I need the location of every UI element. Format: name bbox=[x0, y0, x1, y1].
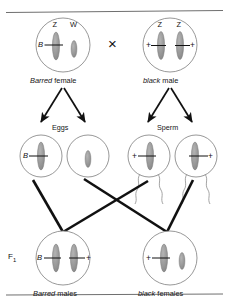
chromosome-label-z-male-left: Z bbox=[158, 21, 163, 28]
fertilization-line-sperm-to-f1-male bbox=[63, 181, 148, 232]
chromosome-label-w-female: W bbox=[70, 21, 77, 28]
allele-label-female-b: B bbox=[38, 41, 43, 49]
parent-male-caption-italic: black bbox=[143, 76, 160, 85]
eggs-label: Eggs bbox=[52, 124, 68, 131]
parent-female-caption-rest: female bbox=[54, 76, 76, 85]
figure-canvas: Z W Z Z B + + × Barred female black male… bbox=[0, 0, 229, 303]
parent-male-caption: black male bbox=[143, 77, 178, 84]
chromosome-label-z-female: Z bbox=[53, 21, 58, 28]
chromosome-f1-female-w bbox=[179, 253, 185, 270]
chromosome-z-female bbox=[52, 32, 59, 60]
allele-label-egg-b: B bbox=[23, 152, 28, 160]
sperm-label: Sperm bbox=[157, 124, 178, 131]
arrow-male-to-sperm-left bbox=[148, 88, 169, 122]
allele-label-sperm-right-plus: + bbox=[208, 152, 213, 160]
parent-female-caption-italic: Barred bbox=[30, 76, 52, 85]
top-rule bbox=[6, 11, 223, 13]
allele-label-f1-male-b: B bbox=[37, 254, 42, 262]
chromosome-label-z-male-right: Z bbox=[177, 21, 182, 28]
allele-label-f1-male-plus: + bbox=[86, 254, 91, 262]
f1-generation-label: F1 bbox=[8, 253, 16, 263]
arrow-male-to-sperm-right bbox=[171, 88, 192, 122]
parent-male-caption-rest: male bbox=[162, 76, 178, 85]
allele-label-f1-female-plus: + bbox=[146, 254, 151, 262]
f1-label-subscript: 1 bbox=[13, 257, 16, 263]
parent-female-caption: Barred female bbox=[30, 77, 76, 84]
f1-male-caption-italic: Barred bbox=[33, 289, 55, 298]
allele-label-male-left-plus: + bbox=[146, 41, 151, 49]
f1-female-caption: black females bbox=[138, 290, 183, 297]
chromosome-egg-w bbox=[85, 151, 91, 168]
chromosome-w-female bbox=[71, 41, 77, 58]
arrow-female-to-egg-left bbox=[41, 88, 62, 122]
arrow-female-to-egg-right bbox=[64, 88, 85, 122]
sperm-tail-right-b bbox=[205, 174, 210, 204]
f1-female-caption-rest: females bbox=[157, 289, 183, 298]
f1-female-caption-italic: black bbox=[138, 289, 155, 298]
allele-label-male-right-plus: + bbox=[190, 41, 195, 49]
allele-label-sperm-left-plus: + bbox=[132, 152, 137, 160]
fertilization-line-sperm-right-to-f1-female bbox=[167, 180, 193, 232]
cross-symbol: × bbox=[108, 36, 117, 51]
fertilization-line-egg-z-to-f1-male bbox=[33, 180, 63, 232]
f1-male-caption: Barred males bbox=[33, 290, 77, 297]
fertilization-line-egg-w-to-f1-female bbox=[84, 179, 167, 232]
sperm-tail-left-b bbox=[158, 174, 163, 204]
f1-male-caption-rest: males bbox=[57, 289, 77, 298]
